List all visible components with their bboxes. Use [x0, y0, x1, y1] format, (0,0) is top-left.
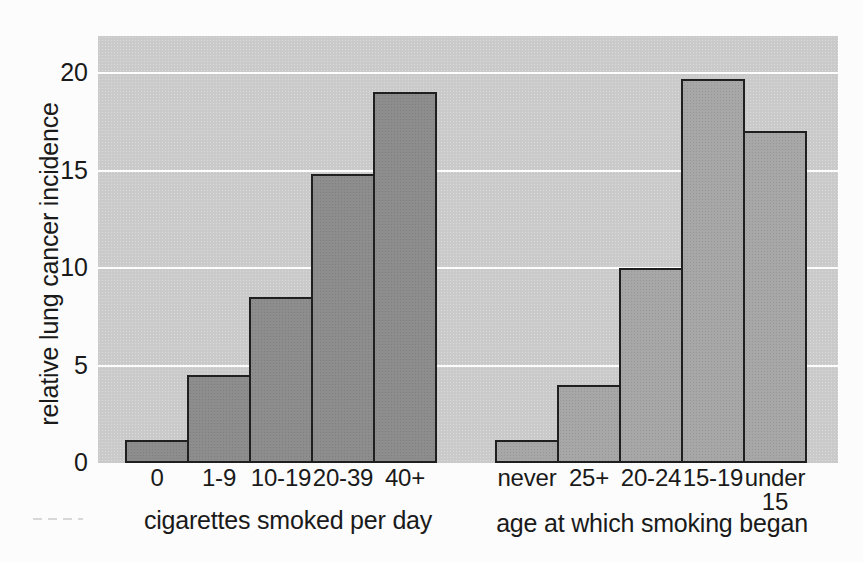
y-tick-label-10: 10 [0, 254, 88, 280]
bar-cigarettes-per-day-0 [125, 440, 189, 463]
category-label-0: 0 [150, 466, 163, 490]
y-tick-label-15: 15 [0, 157, 88, 183]
category-label-never: never [497, 466, 556, 490]
y-tick-label-5: 5 [0, 352, 88, 378]
category-label-10-19: 10-19 [251, 466, 311, 490]
category-label-15-19: 15-19 [683, 466, 743, 490]
category-label-under15: under 15 [745, 466, 805, 514]
bar-cigarettes-per-day-40+ [373, 92, 437, 463]
category-label-1-9: 1-9 [202, 466, 236, 490]
bar-age-smoking-began-25+ [557, 385, 621, 463]
bar-cigarettes-per-day-20-39 [311, 174, 375, 463]
scan-artifact-dashes [33, 518, 83, 520]
gridline-20 [98, 72, 838, 74]
category-label-40+: 40+ [385, 466, 425, 490]
bar-age-smoking-began-15-19 [681, 79, 745, 463]
bar-age-smoking-began-20-24 [619, 268, 683, 463]
bar-age-smoking-began-never [495, 440, 559, 463]
bar-cigarettes-per-day-1-9 [187, 375, 251, 463]
y-tick-label-0: 0 [0, 449, 88, 475]
category-label-20-39: 20-39 [313, 466, 373, 490]
category-label-25+: 25+ [569, 466, 609, 490]
y-tick-label-20: 20 [0, 59, 88, 85]
lung-cancer-bar-chart: relative lung cancer incidence cigarette… [0, 0, 863, 562]
plot-area [98, 36, 838, 463]
x-axis-title-cigarettes: cigarettes smoked per day [144, 506, 432, 535]
category-label-20-24: 20-24 [621, 466, 681, 490]
bar-age-smoking-began-under15 [743, 131, 807, 463]
bar-cigarettes-per-day-10-19 [249, 297, 313, 463]
